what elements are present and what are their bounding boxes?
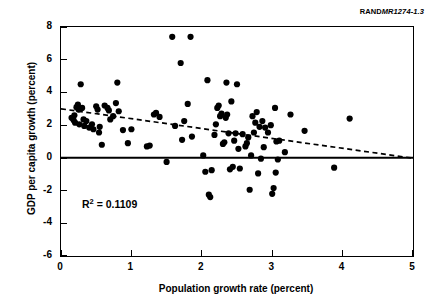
data-point (128, 126, 134, 132)
data-point (228, 98, 234, 104)
data-point (172, 123, 178, 129)
data-point (78, 81, 84, 87)
data-point (223, 80, 229, 86)
y-tick-mark (61, 255, 67, 256)
x-tick-mark (272, 250, 273, 256)
data-point (169, 34, 175, 40)
data-point (125, 140, 131, 146)
data-point (204, 77, 210, 83)
data-point (271, 185, 277, 191)
x-tick-mark (201, 250, 202, 256)
data-point (269, 191, 275, 197)
data-point (90, 126, 96, 132)
data-point (256, 124, 262, 130)
data-point (221, 139, 227, 145)
data-point (232, 130, 238, 136)
data-point (225, 130, 231, 136)
x-tick-mark (60, 250, 61, 256)
data-point (234, 81, 240, 87)
data-point (235, 146, 241, 152)
data-point (211, 132, 217, 138)
data-point (258, 156, 264, 162)
data-point (247, 187, 253, 193)
data-point (147, 142, 153, 148)
data-point (178, 60, 184, 66)
data-point (254, 109, 260, 115)
data-point (244, 140, 250, 146)
data-point (79, 105, 85, 111)
r-squared-annotation: R2 = 0.1109 (82, 198, 137, 210)
data-point (255, 170, 261, 176)
data-point (213, 121, 219, 127)
data-point (83, 118, 89, 124)
data-point (287, 111, 293, 117)
data-point (164, 159, 170, 165)
y-tick-mark (61, 125, 67, 126)
y-axis-title: GDP per capita growth (percent) (26, 24, 37, 254)
data-point (71, 112, 77, 118)
x-tick-label: 3 (259, 262, 283, 272)
report-tag: RANDMR1274-1.3 (360, 7, 424, 16)
data-point (99, 142, 105, 148)
data-point (156, 114, 162, 120)
data-point (202, 169, 208, 175)
data-point (209, 167, 215, 173)
report-tag-prefix: RAND (360, 7, 382, 16)
y-tick-mark (61, 92, 67, 93)
x-tick-label: 4 (330, 262, 354, 272)
data-point (261, 144, 267, 150)
x-tick-mark (412, 250, 413, 256)
data-point (120, 127, 126, 133)
data-point (248, 152, 254, 158)
x-tick-label: 2 (189, 262, 213, 272)
data-point (181, 118, 187, 124)
data-point (207, 194, 213, 200)
plot-canvas (61, 27, 413, 256)
x-tick-mark (342, 250, 343, 256)
report-tag-number: MR1274-1.3 (382, 7, 424, 16)
data-point (265, 129, 271, 135)
data-point (259, 118, 265, 124)
data-point (110, 113, 116, 119)
y-tick-mark (61, 59, 67, 60)
plot-area (60, 26, 414, 257)
data-point (237, 165, 243, 171)
data-point (251, 129, 257, 135)
data-point (113, 100, 119, 106)
data-point (97, 124, 103, 130)
scatter-plot-figure: RANDMR1274-1.3 86420-2-4-6 012345 Popula… (0, 0, 434, 307)
data-point (240, 131, 246, 137)
x-tick-mark (131, 250, 132, 256)
data-point (185, 101, 191, 107)
data-point (95, 107, 101, 113)
data-point (224, 111, 230, 117)
data-point (96, 129, 102, 135)
y-tick-mark (61, 190, 67, 191)
data-point (187, 34, 193, 40)
r-squared-value: = 0.1109 (94, 198, 138, 210)
r-squared-symbol: R (82, 198, 90, 210)
data-point (272, 105, 278, 111)
data-point (347, 116, 353, 122)
data-point (268, 122, 274, 128)
data-point (230, 164, 236, 170)
data-point (273, 169, 279, 175)
y-tick-mark (61, 157, 67, 158)
y-tick-mark (61, 223, 67, 224)
data-point (189, 133, 195, 139)
data-point (275, 156, 281, 162)
data-point (245, 134, 251, 140)
data-point (200, 152, 206, 158)
data-point (331, 165, 337, 171)
data-points (68, 34, 352, 201)
data-point (301, 128, 307, 134)
data-point (282, 149, 288, 155)
data-point (216, 102, 222, 108)
data-point (114, 80, 120, 86)
data-point (116, 108, 122, 114)
x-axis-title: Population growth rate (percent) (60, 283, 412, 294)
data-point (276, 138, 282, 144)
data-point (106, 107, 112, 113)
x-tick-label: 0 (48, 262, 72, 272)
y-tick-mark (61, 26, 67, 27)
